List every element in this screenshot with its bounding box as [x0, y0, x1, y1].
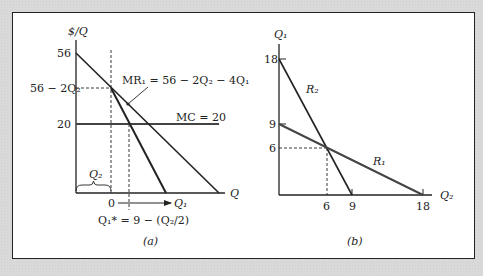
- a-mr-line: [111, 88, 166, 193]
- a-q1-axis-label: Q₁: [174, 197, 187, 210]
- a-tick-56-2q2: 56 − 2Q₂: [30, 82, 81, 95]
- b-ytick-6: 6: [269, 142, 276, 155]
- panel-b: Q₁ Q₂ 18 9 6 6 9 18 R₂ R₁ (b): [264, 28, 453, 248]
- a-origin-label: 0: [108, 197, 115, 210]
- b-r1-line: [279, 124, 423, 195]
- a-mc-label: MC = 20: [176, 111, 226, 124]
- b-xtick-6: 6: [323, 200, 330, 213]
- b-y-axis-label: Q₁: [274, 28, 287, 41]
- a-x-axis-label: Q: [230, 187, 239, 200]
- b-x-axis-label: Q₂: [440, 189, 453, 202]
- a-caption: (a): [143, 235, 158, 248]
- a-q2-bracket-label: Q₂: [89, 168, 102, 181]
- a-y-axis-label: $/Q: [68, 25, 88, 38]
- b-caption: (b): [347, 235, 363, 248]
- a-q2-bracket: [76, 181, 111, 191]
- b-r2-label: R₂: [305, 83, 319, 96]
- figure-svg: $/Q Q 56 56 − 2Q₂ 20 MC = 20 MR₁ = 56 − …: [0, 0, 483, 276]
- b-xtick-9: 9: [349, 200, 356, 213]
- a-tick-20: 20: [57, 118, 71, 131]
- a-mr-label: MR₁ = 56 − 2Q₂ − 4Q₁: [122, 74, 249, 87]
- panel-a: $/Q Q 56 56 − 2Q₂ 20 MC = 20 MR₁ = 56 − …: [30, 25, 249, 248]
- a-tick-56: 56: [57, 47, 71, 60]
- a-q1star-label: Q₁* = 9 − (Q₂/2): [98, 214, 189, 227]
- a-mr-leader-dot: [126, 102, 129, 105]
- b-r2-line: [279, 59, 352, 195]
- b-ytick-9: 9: [269, 118, 276, 131]
- b-ytick-18: 18: [264, 53, 278, 66]
- a-mr-leader: [128, 87, 148, 104]
- b-r1-label: R₁: [372, 155, 386, 168]
- b-xtick-18: 18: [416, 200, 430, 213]
